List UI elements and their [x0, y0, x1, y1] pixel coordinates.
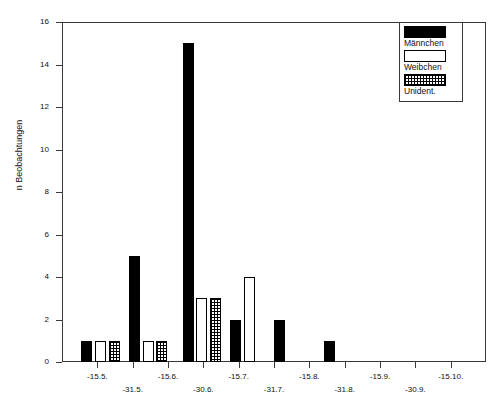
- bar: [129, 256, 140, 362]
- x-axis-tick: [239, 362, 240, 368]
- y-axis-tick: [56, 362, 62, 363]
- histogram-chart: n Beobachtungen 0246810121416 -15.5.-31.…: [0, 0, 498, 401]
- y-axis-tick-label: 8: [45, 188, 49, 196]
- x-axis-tick-label: -15.7.: [228, 373, 248, 381]
- bar: [324, 341, 335, 362]
- white-swatch: [404, 50, 446, 62]
- x-axis-tick-label: -15.8.: [299, 373, 319, 381]
- legend-label: Unident.: [404, 86, 458, 97]
- y-axis-tick-label: 0: [45, 358, 49, 366]
- x-axis-tick-label: -15.10.: [438, 373, 463, 381]
- x-axis-tick-label: -30.6.: [193, 386, 213, 394]
- x-axis-tick: [97, 362, 98, 368]
- y-axis-tick-label: 16: [40, 18, 49, 26]
- x-axis-tick: [415, 362, 416, 368]
- x-axis-tick-label: -30.9.: [405, 386, 425, 394]
- solid-black-swatch: [404, 26, 446, 38]
- y-axis-tick-label: 14: [40, 61, 49, 69]
- chart-legend: MännchenWeibchenUnident.: [399, 22, 463, 102]
- y-axis-tick-label: 2: [45, 316, 49, 324]
- x-axis-tick-label: -31.8.: [334, 386, 354, 394]
- bar: [95, 341, 106, 362]
- x-axis-tick: [345, 362, 346, 368]
- x-axis-tick-label: -31.5.: [122, 386, 142, 394]
- y-axis-tick-label: 10: [40, 146, 49, 154]
- bar: [196, 298, 207, 362]
- x-axis-tick-label: -15.9.: [370, 373, 390, 381]
- legend-entry: Weibchen: [404, 50, 458, 73]
- bar: [156, 341, 167, 362]
- y-axis-tick-label: 4: [45, 273, 49, 281]
- bar: [109, 341, 120, 362]
- y-axis-tick-label: 12: [40, 103, 49, 111]
- legend-entry: Männchen: [404, 26, 458, 49]
- bar: [210, 298, 221, 362]
- x-axis-tick: [274, 362, 275, 368]
- x-axis-tick: [133, 362, 134, 368]
- x-axis-tick: [168, 362, 169, 368]
- bar: [244, 277, 255, 362]
- bar: [81, 341, 92, 362]
- x-axis-tick-label: -15.6.: [158, 373, 178, 381]
- legend-label: Männchen: [404, 38, 458, 49]
- y-axis-tick-label: 6: [45, 231, 49, 239]
- bar: [274, 320, 285, 363]
- y-axis-title: n Beobachtungen: [14, 90, 24, 220]
- hatched-swatch: [404, 74, 446, 86]
- legend-label: Weibchen: [404, 62, 458, 73]
- bar: [143, 341, 154, 362]
- x-axis-tick: [380, 362, 381, 368]
- x-axis-tick: [451, 362, 452, 368]
- x-axis-tick: [203, 362, 204, 368]
- bar: [230, 320, 241, 363]
- legend-entry: Unident.: [404, 74, 458, 97]
- bar: [183, 43, 194, 362]
- x-axis-tick-label: -15.5.: [87, 373, 107, 381]
- x-axis-tick: [309, 362, 310, 368]
- x-axis-tick-label: -31.7.: [264, 386, 284, 394]
